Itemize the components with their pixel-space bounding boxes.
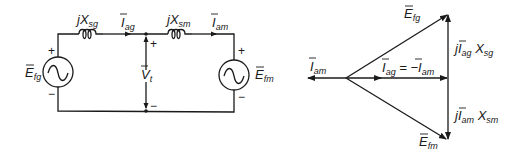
vt-plus-sign: + [150,37,157,51]
inductor-motor-icon [168,30,192,39]
svg-text:Iam: Iam [212,15,229,32]
efm-plus-sign: + [238,44,245,58]
label-phasor-drop-motor: jIam Xsm [453,108,499,125]
wire-right-top [214,34,234,60]
label-phasor-iam: Iam [309,58,327,76]
vt-minus-sign: − [150,99,157,113]
node-bottom [144,109,148,113]
label-iag: Iag [120,14,135,32]
label-vt: Vt [141,66,153,84]
phasor-efm-arrow [346,78,446,139]
label-phasor-drop-gen: jIag Xsg [453,41,493,58]
efg-plus-sign: + [48,44,55,58]
svg-text:Efg: Efg [25,65,41,82]
label-jxsm: jXsm [165,12,191,29]
svg-text:Efm: Efm [419,134,438,151]
svg-text:jIag Xsg: jIag Xsg [453,41,493,58]
label-phasor-efg: Efg [404,6,420,23]
label-efm: Efm [255,67,274,84]
efg-minus-sign: − [48,87,55,101]
label-phasor-iag-eq: Iag = −Iam [382,59,435,77]
svg-text:Iag = −Iam: Iag = −Iam [382,60,435,77]
ac-source-gen-icon [43,57,73,87]
label-phasor-efm: Efm [419,134,438,151]
svg-text:Iag: Iag [121,15,135,32]
svg-text:Efm: Efm [255,67,274,84]
diagram-canvas: jXsg Iag jXsm Iam + − Efg + − Vt + − Efm [0,0,517,156]
phasor-diagram: Iam Iag = −Iam Efg Efm jIag Xsg jIam Xsm [308,6,499,151]
svg-text:Iam: Iam [310,59,327,76]
efm-minus-sign: − [238,90,245,104]
node-top [144,32,148,36]
label-efg: Efg [25,65,41,82]
equivalent-circuit: jXsg Iag jXsm Iam + − Efg + − Vt + − Efm [25,12,274,113]
svg-text:jIam Xsm: jIam Xsm [453,108,499,125]
ac-source-motor-icon [219,60,249,90]
wire-left-top [58,34,79,57]
label-jxsg: jXsg [75,12,98,29]
svg-text:Vt: Vt [141,67,153,84]
label-iam: Iam [211,14,229,32]
svg-text:Efg: Efg [404,6,420,23]
inductor-gen-icon [79,30,103,39]
